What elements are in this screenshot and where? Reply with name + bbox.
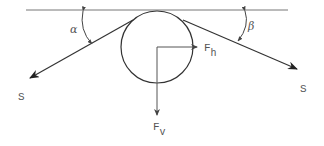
tension-right-label: S (300, 83, 307, 95)
pulley-diagram: α β Fh Fv S S (0, 0, 324, 146)
beta-label: β (247, 20, 254, 33)
force-horizontal-label: Fh (204, 42, 217, 59)
force-vertical-label: Fv (153, 121, 166, 138)
rope-left-tension-arrow (30, 20, 133, 78)
alpha-label: α (70, 23, 78, 36)
alpha-angle-arc (82, 11, 92, 44)
tension-left-label: S (18, 91, 25, 103)
rope-right-tension-arrow (183, 20, 297, 69)
beta-angle-arc (238, 11, 246, 41)
